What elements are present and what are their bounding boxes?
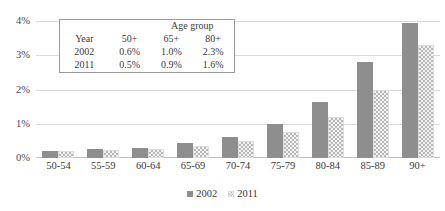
table-row: 2002 0.6% 1.0% 2.3% (60, 46, 234, 59)
column-header-65plus: 65+ (150, 33, 192, 46)
x-tick-label: 55-59 (81, 161, 126, 181)
bar-2002[interactable] (177, 143, 193, 158)
x-tick-label: 60-64 (126, 161, 171, 181)
bar-2002[interactable] (267, 124, 283, 158)
bar-group (395, 21, 440, 158)
x-tick-label: 80-84 (305, 161, 350, 181)
legend-swatch-icon (187, 191, 193, 197)
cell-50plus: 0.6% (109, 46, 151, 59)
bar-group (350, 21, 395, 158)
y-tick-label: 1% (16, 119, 30, 130)
legend: 2002 2011 (0, 189, 445, 200)
column-header-80plus: 80+ (192, 33, 234, 46)
spacer-cell (60, 20, 109, 33)
legend-item-2002[interactable]: 2002 (187, 189, 217, 200)
bar-2002[interactable] (42, 151, 58, 158)
y-tick-label: 2% (16, 85, 30, 96)
x-tick-label: 90+ (395, 161, 440, 181)
x-tick-label: 50-54 (36, 161, 81, 181)
cell-80plus: 1.6% (192, 59, 234, 72)
bar-2011[interactable] (193, 146, 209, 158)
x-tick-label: 75-79 (260, 161, 305, 181)
bar-2002[interactable] (402, 23, 418, 158)
bar-2011[interactable] (418, 45, 434, 158)
y-tick-label: 0% (16, 153, 30, 164)
bar-2011[interactable] (373, 90, 389, 159)
bar-2011[interactable] (103, 150, 119, 158)
y-axis: 4% 3% 2% 1% 0% (0, 0, 34, 170)
age-group-header: Age group (150, 20, 234, 33)
bar-2011[interactable] (238, 141, 254, 158)
table-header-row: Year 50+ 65+ 80+ (60, 33, 234, 46)
y-tick-label: 4% (16, 16, 30, 27)
bar-2002[interactable] (357, 62, 373, 158)
cell-50plus: 0.5% (109, 59, 151, 72)
column-header-year: Year (60, 33, 109, 46)
y-tick-label: 3% (16, 50, 30, 61)
inset-summary-table: Age group Year 50+ 65+ 80+ 2002 0.6% 1.0… (59, 19, 235, 73)
summary-table: Age group Year 50+ 65+ 80+ 2002 0.6% 1.0… (60, 20, 234, 72)
bar-group (305, 21, 350, 158)
x-tick-label: 65-69 (171, 161, 216, 181)
legend-label: 2002 (196, 189, 217, 200)
table-row: 2011 0.5% 0.9% 1.6% (60, 59, 234, 72)
bar-2011[interactable] (328, 117, 344, 158)
cell-year: 2011 (60, 59, 109, 72)
cell-65plus: 1.0% (150, 46, 192, 59)
bar-2011[interactable] (283, 132, 299, 158)
bar-chart: 4% 3% 2% 1% 0% 50-5455-5960-6465-6970-74… (0, 0, 445, 211)
spacer-cell (109, 20, 151, 33)
cell-year: 2002 (60, 46, 109, 59)
x-tick-label: 85-89 (350, 161, 395, 181)
legend-item-2011[interactable]: 2011 (228, 189, 258, 200)
x-tick-label: 70-74 (216, 161, 261, 181)
bar-2002[interactable] (132, 148, 148, 158)
legend-swatch-icon (228, 191, 234, 197)
bar-2002[interactable] (222, 137, 238, 158)
legend-label: 2011 (237, 189, 258, 200)
cell-80plus: 2.3% (192, 46, 234, 59)
x-axis: 50-5455-5960-6465-6970-7475-7980-8485-89… (36, 161, 440, 181)
column-header-50plus: 50+ (109, 33, 151, 46)
cell-65plus: 0.9% (150, 59, 192, 72)
bar-2011[interactable] (58, 151, 74, 158)
bar-group (260, 21, 305, 158)
table-header-group-row: Age group (60, 20, 234, 33)
bar-2011[interactable] (148, 149, 164, 158)
bar-2002[interactable] (87, 149, 103, 158)
bar-2002[interactable] (312, 102, 328, 159)
